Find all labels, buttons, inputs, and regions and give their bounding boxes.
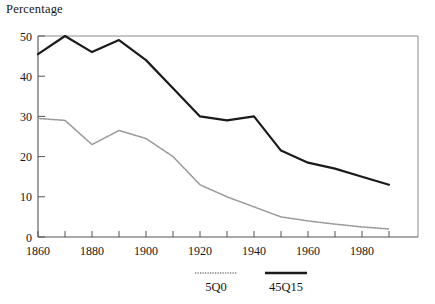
x-tick-label: 1860 (26, 244, 50, 258)
y-tick-label: 50 (20, 30, 32, 44)
x-tick-label: 1920 (188, 244, 212, 258)
x-tick-label: 1880 (80, 244, 104, 258)
x-tick-label: 1960 (296, 244, 320, 258)
y-axis-ticks: 01020304050 (20, 30, 45, 245)
x-axis-ticks: 1860188019001920194019601980 (26, 231, 389, 258)
plot-frame (38, 36, 418, 237)
legend-label-5Q0: 5Q0 (205, 280, 227, 294)
series-line-45Q15 (38, 36, 389, 185)
legend-label-45Q15: 45Q15 (269, 280, 303, 294)
series-line-5Q0 (38, 118, 389, 229)
chart-container: Percentage 01020304050 18601880190019201… (0, 0, 435, 304)
y-tick-label: 40 (20, 70, 32, 84)
x-tick-label: 1980 (350, 244, 374, 258)
series-layer (38, 36, 389, 229)
chart-legend: 5Q045Q15 (195, 273, 307, 294)
y-tick-label: 20 (20, 150, 32, 164)
x-tick-label: 1940 (242, 244, 266, 258)
x-tick-label: 1900 (134, 244, 158, 258)
y-tick-label: 30 (20, 110, 32, 124)
y-tick-label: 10 (20, 190, 32, 204)
line-chart: 01020304050 1860188019001920194019601980… (0, 0, 435, 304)
y-tick-label: 0 (26, 231, 32, 245)
